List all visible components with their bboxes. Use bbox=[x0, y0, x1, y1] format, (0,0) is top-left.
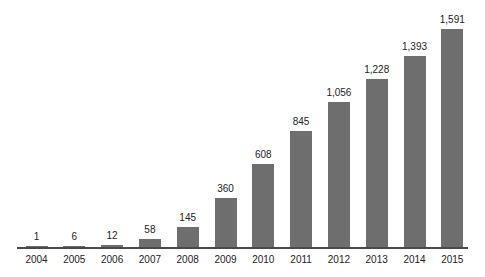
value-label: 608 bbox=[238, 149, 288, 160]
bar-2012 bbox=[328, 102, 350, 247]
value-label: 1,591 bbox=[427, 14, 477, 25]
x-tick-label: 2015 bbox=[427, 254, 477, 265]
bar-2007 bbox=[139, 239, 161, 247]
x-axis-line bbox=[17, 247, 468, 249]
value-label: 360 bbox=[201, 183, 251, 194]
bar-2006 bbox=[101, 245, 123, 247]
bar-chart: 1200462005122006582007145200836020096082… bbox=[0, 0, 485, 277]
bar-2009 bbox=[215, 198, 237, 247]
bar-2004 bbox=[26, 246, 48, 247]
bar-2013 bbox=[366, 79, 388, 247]
bar-2005 bbox=[63, 246, 85, 247]
value-label: 1,056 bbox=[314, 87, 364, 98]
bar-2015 bbox=[441, 29, 463, 247]
bar-2014 bbox=[404, 56, 426, 247]
value-label: 1,393 bbox=[390, 41, 440, 52]
value-label: 1,228 bbox=[352, 64, 402, 75]
bar-2010 bbox=[252, 164, 274, 247]
bar-2008 bbox=[177, 227, 199, 247]
bar-2011 bbox=[290, 131, 312, 247]
value-label: 845 bbox=[276, 116, 326, 127]
value-label: 58 bbox=[125, 224, 175, 235]
value-label: 145 bbox=[163, 212, 213, 223]
